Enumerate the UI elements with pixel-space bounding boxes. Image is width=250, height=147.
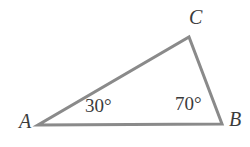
angle-label-a: 30° — [85, 96, 112, 115]
vertex-label-c: C — [189, 7, 202, 27]
geometry-figure: A B C 30° 70° — [0, 0, 250, 147]
angle-label-b: 70° — [175, 94, 202, 113]
vertex-label-a: A — [19, 111, 31, 131]
triangle-shape — [0, 0, 250, 147]
vertex-label-b: B — [229, 109, 241, 129]
